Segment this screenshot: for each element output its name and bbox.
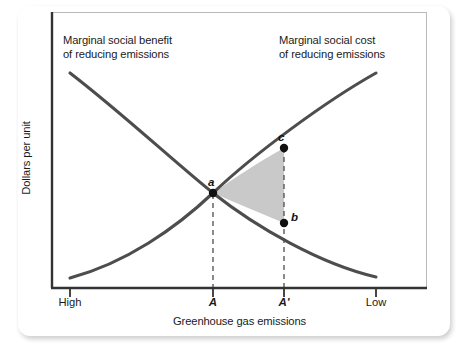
curve-label-marginal-social-cost: Marginal social cost of reducing emissio…: [279, 33, 385, 61]
data-point-a: [209, 189, 217, 197]
figure-root: Marginal social benefit of reducing emis…: [0, 0, 463, 350]
x-tick-label-high: High: [40, 296, 100, 308]
data-point-b: [280, 219, 288, 227]
y-axis-title: Dollars per unit: [20, 98, 32, 218]
shaded-deadweight-loss-region: [213, 148, 284, 223]
point-label-c: c: [278, 131, 284, 143]
point-label-a: a: [208, 176, 214, 188]
x-tick-label-a: A: [183, 296, 243, 308]
x-tick-label-a-prime: A': [254, 296, 314, 308]
point-label-b: b: [291, 211, 298, 223]
x-tick-label-low: Low: [346, 296, 406, 308]
curve-marginal-social-cost: [70, 73, 376, 278]
curve-label-marginal-social-benefit: Marginal social benefit of reducing emis…: [63, 33, 172, 61]
curve-marginal-social-benefit: [70, 73, 376, 277]
data-point-c: [280, 144, 288, 152]
x-axis-title: Greenhouse gas emissions: [52, 315, 427, 327]
